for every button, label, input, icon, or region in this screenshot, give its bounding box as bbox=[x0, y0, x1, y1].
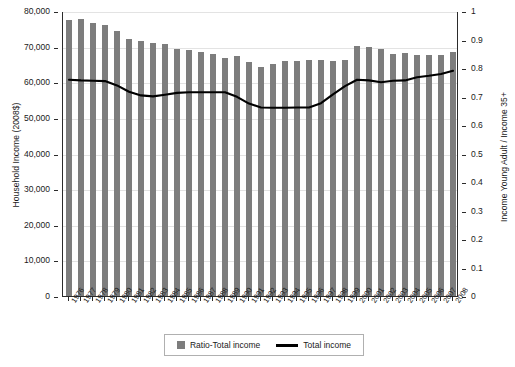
y-axis-right-tick bbox=[462, 269, 466, 270]
y-axis-right-tick bbox=[462, 240, 466, 241]
y-axis-right-tick-label: 0 bbox=[471, 292, 476, 301]
y-axis-left-tick bbox=[54, 48, 58, 49]
y-axis-right-tick bbox=[462, 183, 466, 184]
chart-figure: 010,00020,00030,00040,00050,00060,00070,… bbox=[0, 0, 515, 367]
y-axis-right-tick-label: 0.1 bbox=[471, 264, 483, 273]
y-axis-right-tick-label: 0.4 bbox=[471, 178, 483, 187]
y-axis-right-tick bbox=[462, 155, 466, 156]
y-axis-right-tick-label: 0.6 bbox=[471, 121, 483, 130]
y-axis-left-tick-label: 50,000 bbox=[24, 114, 50, 123]
y-axis-right-tick bbox=[462, 69, 466, 70]
y-axis-left-tick-label: 30,000 bbox=[24, 185, 50, 194]
y-axis-right-tick bbox=[462, 12, 466, 13]
y-axis-right-tick-label: 0.9 bbox=[471, 36, 483, 45]
y-axis-right-tick bbox=[462, 126, 466, 127]
y-axis-left-tick-label: 10,000 bbox=[24, 256, 50, 265]
y-axis-right-tick-label: 0.8 bbox=[471, 64, 483, 73]
y-axis-left-tick-label: 60,000 bbox=[24, 78, 50, 87]
y-axis-left-tick-label: 20,000 bbox=[24, 221, 50, 230]
legend-label-total-income: Total income bbox=[303, 340, 351, 350]
y-axis-right-tick-label: 0.2 bbox=[471, 235, 483, 244]
y-axis-right-tick-label: 0.7 bbox=[471, 93, 483, 102]
chart-legend: Ratio-Total income Total income bbox=[164, 334, 364, 356]
legend-swatch-line-icon bbox=[276, 344, 298, 347]
y-axis-left-tick-label: 80,000 bbox=[24, 7, 50, 16]
y-axis-left-title: Household Income (2008$) bbox=[11, 75, 21, 235]
y-axis-right-title: Income Young Adult / Income 35+ bbox=[499, 67, 509, 247]
legend-swatch-bar-icon bbox=[177, 341, 185, 349]
legend-item-total-income: Total income bbox=[276, 340, 351, 350]
y-axis-left-tick bbox=[54, 297, 58, 298]
y-axis-left-tick-label: 70,000 bbox=[24, 43, 50, 52]
y-axis-right-tick-label: 1 bbox=[471, 7, 476, 16]
y-axis-right-tick bbox=[462, 212, 466, 213]
y-axis-right-tick-label: 0.3 bbox=[471, 207, 483, 216]
y-axis-left-tick bbox=[54, 190, 58, 191]
y-axis-left-tick-label: 0 bbox=[45, 292, 50, 301]
y-axis-left-tick bbox=[54, 155, 58, 156]
y-axis-left-tick bbox=[54, 83, 58, 84]
y-axis-right: 00.10.20.30.40.50.60.70.80.91 bbox=[462, 0, 502, 367]
y-axis-right-tick bbox=[462, 41, 466, 42]
y-axis-right-tick bbox=[462, 98, 466, 99]
y-axis-left-tick bbox=[54, 226, 58, 227]
y-axis-left-tick bbox=[54, 261, 58, 262]
legend-label-ratio-total-income: Ratio-Total income bbox=[190, 340, 260, 350]
x-axis-labels: 1976197719781979198019811982198319841985… bbox=[62, 298, 458, 334]
y-axis-right-tick-label: 0.5 bbox=[471, 150, 483, 159]
y-axis-left-tick bbox=[54, 12, 58, 13]
y-axis-left-tick-label: 40,000 bbox=[24, 150, 50, 159]
legend-item-ratio-total-income: Ratio-Total income bbox=[177, 340, 260, 350]
y-axis-left-tick bbox=[54, 119, 58, 120]
line-series-total-income bbox=[63, 12, 459, 297]
plot-area bbox=[62, 12, 458, 297]
